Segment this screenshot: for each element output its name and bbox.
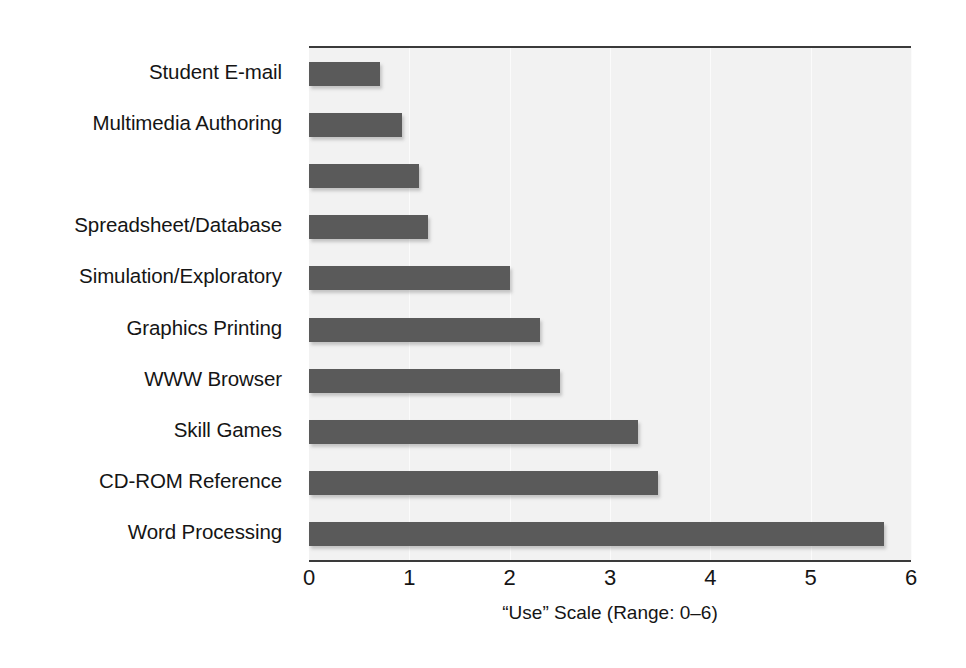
horizontal-bar-chart: Student E-mailMultimedia AuthoringSpread…	[0, 0, 966, 668]
x-tick-label-3: 3	[604, 564, 616, 592]
x-axis-title: “Use” Scale (Range: 0–6)	[309, 602, 911, 624]
bar	[309, 266, 510, 290]
bar	[309, 420, 638, 444]
category-label: Multimedia Authoring	[93, 111, 282, 135]
bar	[309, 62, 380, 86]
category-axis-labels: Student E-mailMultimedia AuthoringSpread…	[0, 46, 296, 558]
gridline-6	[911, 48, 912, 560]
x-tick-label-1: 1	[403, 564, 415, 592]
category-label: Skill Games	[174, 418, 282, 442]
bar	[309, 522, 884, 546]
bar-series	[309, 48, 911, 560]
category-label: Student E-mail	[149, 60, 282, 84]
x-tick-label-2: 2	[504, 564, 516, 592]
category-label: WWW Browser	[144, 367, 282, 391]
bar	[309, 113, 402, 137]
category-label: Simulation/Exploratory	[79, 264, 282, 288]
bar	[309, 471, 658, 495]
x-tick-label-5: 5	[805, 564, 817, 592]
bar	[309, 369, 560, 393]
x-tick-label-0: 0	[303, 564, 315, 592]
bar	[309, 164, 419, 188]
x-axis-tick-labels: 0123456	[309, 564, 911, 598]
x-tick-label-6: 6	[905, 564, 917, 592]
bar	[309, 318, 540, 342]
category-label: Spreadsheet/Database	[74, 213, 282, 237]
plot-area	[309, 46, 911, 562]
category-label: Word Processing	[128, 520, 282, 544]
category-label: CD-ROM Reference	[99, 469, 282, 493]
x-tick-label-4: 4	[704, 564, 716, 592]
category-label: Graphics Printing	[126, 316, 282, 340]
bar	[309, 215, 428, 239]
